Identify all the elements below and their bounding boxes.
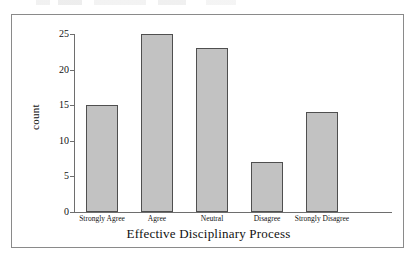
y-tick-mark-5 <box>70 176 74 177</box>
bar-strongly-agree[interactable] <box>86 105 118 212</box>
x-tick-label-strongly-disagree: Strongly Disagree <box>290 215 354 223</box>
y-tick-label-5: 5 <box>29 171 69 181</box>
y-tick-mark-0 <box>70 212 74 213</box>
y-tick-label-20: 20 <box>29 65 69 75</box>
y-tick-label-0: 0 <box>29 207 69 217</box>
bar-strongly-disagree[interactable] <box>306 112 338 212</box>
x-axis-label: Effective Disciplinary Process <box>12 226 405 242</box>
y-axis-label: count <box>29 82 41 152</box>
y-tick-mark-20 <box>70 70 74 71</box>
figure-frame: 25 20 15 10 5 0 count Strongly Agree Agr… <box>11 14 404 248</box>
x-tick-label-agree: Agree <box>127 215 187 223</box>
x-tick-label-strongly-agree: Strongly Agree <box>72 215 132 223</box>
y-tick-label-25: 25 <box>29 29 69 39</box>
bar-neutral[interactable] <box>196 48 228 212</box>
bar-chart-plot-area: 25 20 15 10 5 0 count Strongly Agree Agr… <box>12 15 405 249</box>
bar-agree[interactable] <box>141 34 173 212</box>
bar-disagree[interactable] <box>251 162 283 212</box>
x-axis-line <box>74 212 392 213</box>
y-tick-mark-10 <box>70 141 74 142</box>
y-tick-mark-25 <box>70 34 74 35</box>
x-tick-label-disagree: Disagree <box>237 215 297 223</box>
x-tick-label-neutral: Neutral <box>182 215 242 223</box>
cut-off-text-artifact <box>36 0 286 5</box>
y-tick-mark-15 <box>70 105 74 106</box>
y-axis-line <box>74 34 75 212</box>
